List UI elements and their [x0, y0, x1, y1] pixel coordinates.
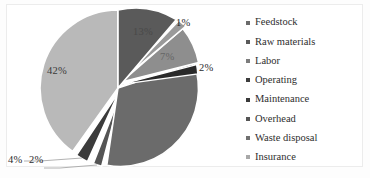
- pie-chart-figure: 13% 1% 7% 2% 42% 4% 2% Feedstock Raw mat…: [0, 0, 370, 178]
- slice-label-insurance: 42%: [47, 66, 67, 77]
- legend-label: Insurance: [255, 152, 296, 163]
- legend-item-overhead[interactable]: Overhead: [246, 112, 358, 125]
- legend-label: Labor: [255, 56, 280, 67]
- legend-label: Maintenance: [255, 94, 309, 105]
- slice-label-maintenance: 2%: [199, 63, 213, 74]
- pie-plot-area: 13% 1% 7% 2% 42% 4% 2%: [0, 0, 238, 178]
- slice-label-labor: 1%: [176, 18, 190, 29]
- legend-label: Raw materials: [255, 37, 315, 48]
- legend-item-labor[interactable]: Labor: [246, 55, 358, 68]
- legend-item-waste-disposal[interactable]: Waste disposal: [246, 132, 358, 145]
- slice-label-waste-disposal: 4%: [8, 155, 22, 166]
- slice-label-overhead: 2%: [29, 155, 43, 166]
- legend-swatch-icon: [246, 59, 250, 63]
- legend-swatch-icon: [246, 98, 250, 102]
- caption-sliver: [150, 171, 350, 176]
- slice-label-raw-materials: 13%: [133, 27, 153, 38]
- legend-item-maintenance[interactable]: Maintenance: [246, 93, 358, 106]
- legend-swatch-icon: [246, 136, 250, 140]
- chart-legend: Feedstock Raw materials Labor Operating …: [246, 16, 358, 164]
- leader-line-overhead: [44, 165, 97, 168]
- legend-swatch-icon: [246, 21, 250, 25]
- legend-swatch-icon: [246, 155, 250, 159]
- legend-label: Operating: [255, 75, 297, 86]
- slice-label-operating: 7%: [160, 52, 174, 63]
- legend-label: Waste disposal: [255, 133, 317, 144]
- pie-svg: [0, 0, 238, 178]
- legend-item-raw-materials[interactable]: Raw materials: [246, 35, 358, 48]
- legend-swatch-icon: [246, 117, 250, 121]
- legend-swatch-icon: [246, 78, 250, 82]
- legend-item-operating[interactable]: Operating: [246, 74, 358, 87]
- legend-label: Feedstock: [255, 17, 298, 28]
- legend-label: Overhead: [255, 114, 296, 125]
- legend-item-feedstock[interactable]: Feedstock: [246, 16, 358, 29]
- legend-item-insurance[interactable]: Insurance: [246, 151, 358, 164]
- legend-swatch-icon: [246, 40, 250, 44]
